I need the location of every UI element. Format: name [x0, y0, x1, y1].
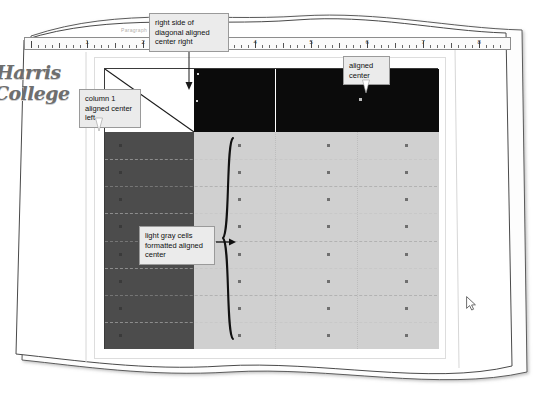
callout-leader-lines	[0, 0, 539, 394]
screenshot-stage: Paragraph 12345678 Harris College	[0, 0, 539, 394]
mouse-cursor	[466, 296, 477, 311]
